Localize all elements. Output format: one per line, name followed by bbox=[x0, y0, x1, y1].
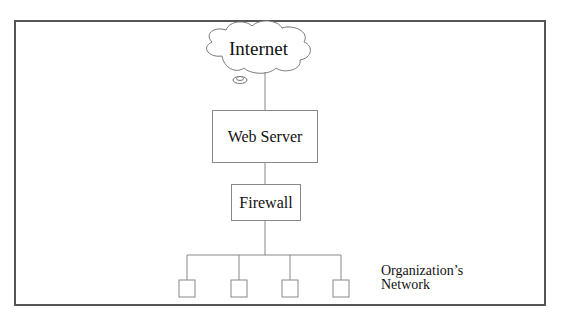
web-server-node: Web Server bbox=[212, 110, 318, 163]
network-label-line1: Organization’s bbox=[381, 264, 463, 278]
host-icon bbox=[231, 280, 247, 297]
internet-label: Internet bbox=[229, 38, 288, 60]
connector-lines bbox=[187, 72, 341, 280]
web-server-label: Web Server bbox=[228, 128, 303, 146]
firewall-label: Firewall bbox=[239, 194, 292, 212]
host-icon bbox=[179, 280, 195, 297]
host-icon bbox=[282, 280, 298, 297]
host-icon bbox=[333, 280, 349, 297]
firewall-node: Firewall bbox=[231, 184, 301, 221]
network-label-line2: Network bbox=[381, 278, 463, 292]
network-label: Organization’s Network bbox=[381, 264, 463, 292]
network-hosts bbox=[179, 280, 349, 297]
